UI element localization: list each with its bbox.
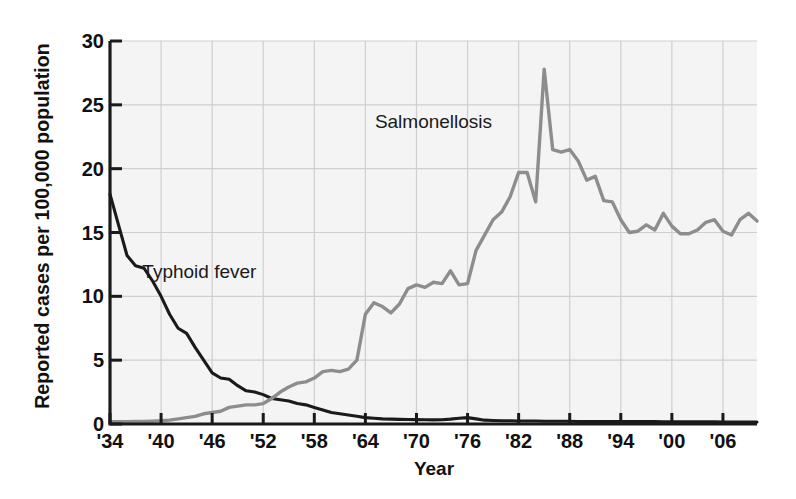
annotation-typhoid-fever: Typhoid fever	[142, 261, 257, 282]
annotation-salmonellosis: Salmonellosis	[375, 111, 492, 132]
chart-figure: Reported cases per 100,000 population 05…	[0, 0, 796, 499]
plot-area: SalmonellosisTyphoid fever	[0, 0, 796, 499]
